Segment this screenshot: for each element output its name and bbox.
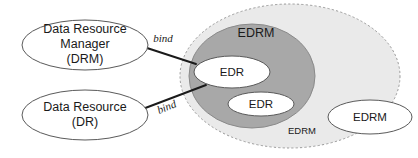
connector-bind-lower-label: bind <box>155 97 178 116</box>
node-edr-2-label: EDR <box>249 98 273 110</box>
node-edrm-right[interactable]: EDRM <box>328 100 412 134</box>
connector-bind-upper-label: bind <box>153 32 173 44</box>
node-drm-line1: Data Resource <box>43 22 126 36</box>
node-drm-line3: (DRM) <box>67 52 104 66</box>
node-data-resource[interactable]: Data Resource (DR) <box>22 90 148 140</box>
region-inner-edrm-label: EDRM <box>238 26 275 40</box>
diagram-root: Data Resource Manager (DRM) Data Resourc… <box>0 0 418 158</box>
region-outer-edrm-label: EDRM <box>288 125 316 136</box>
node-edr-1-label: EDR <box>220 66 244 78</box>
node-edr-1[interactable]: EDR <box>194 56 270 88</box>
node-dr-line1: Data Resource <box>43 100 126 114</box>
edrm-binding-diagram: Data Resource Manager (DRM) Data Resourc… <box>0 0 418 158</box>
node-edrm-right-label: EDRM <box>353 111 387 123</box>
node-data-resource-manager[interactable]: Data Resource Manager (DRM) <box>22 20 148 70</box>
node-dr-line2: (DR) <box>72 115 98 129</box>
node-drm-line2: Manager <box>60 37 109 51</box>
node-edr-2[interactable]: EDR <box>228 92 294 116</box>
